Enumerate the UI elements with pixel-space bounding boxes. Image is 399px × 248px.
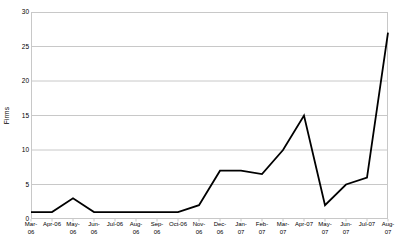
y-axis-tick-label: 10 [22, 147, 29, 154]
x-axis-tick-label: Apr-07 [293, 221, 315, 229]
y-axis-title-label: Firms [4, 106, 11, 123]
x-axis-tick-label: Jul-06 [104, 221, 126, 229]
x-axis-tick-label: May- 06 [62, 221, 84, 236]
x-axis-tick-label: Jun- 07 [335, 221, 357, 236]
plot-area [31, 12, 388, 219]
x-axis-tick-label: Mar- 06 [20, 221, 42, 236]
x-axis-tick-label: Nov- 06 [188, 221, 210, 236]
x-axis-tick-label: Apr-06 [41, 221, 63, 229]
x-axis-tick-labels: Mar- 06Apr-06May- 06Jun- 06Jul-06Aug- 06… [31, 221, 388, 248]
gridlines [31, 47, 388, 185]
x-axis-tick-label: Jun- 06 [83, 221, 105, 236]
x-axis-tick-label: Sep- 06 [146, 221, 168, 236]
x-axis-tick-label: Dec- 06 [209, 221, 231, 236]
y-axis-tick-label: 15 [22, 112, 29, 119]
x-axis-tick-label: Mar- 07 [272, 221, 294, 236]
line-chart: Firms 051015202530 Mar- 06Apr-06May- 06J… [0, 0, 399, 248]
x-axis-tick-label: May- 07 [314, 221, 336, 236]
y-axis-tick-label: 20 [22, 78, 29, 85]
y-axis-tick-labels: 051015202530 [12, 0, 29, 248]
x-axis-tick-label: Aug- 07 [377, 221, 399, 236]
x-axis-tick-label: Oct-06 [167, 221, 189, 229]
x-axis-tick-label: Aug- 06 [125, 221, 147, 236]
x-axis-tick-label: Feb- 07 [251, 221, 273, 236]
x-axis-tick-label: Jul-07 [356, 221, 378, 229]
y-axis-tick-label: 5 [25, 181, 29, 188]
x-axis-tick-label: Jan- 07 [230, 221, 252, 236]
y-axis-tick-label: 30 [22, 9, 29, 16]
data-series-line [31, 33, 388, 212]
y-axis-tick-label: 25 [22, 43, 29, 50]
data-series-group [31, 33, 388, 212]
